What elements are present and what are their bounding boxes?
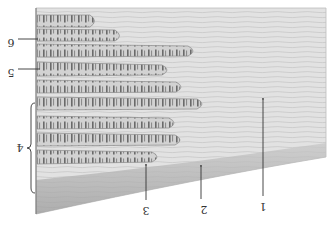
label-5: 5 [8, 66, 15, 79]
muscle-fiber [37, 150, 157, 164]
muscle-fiber [37, 80, 181, 93]
label-2: 2 [201, 203, 208, 216]
muscle-tendon-illustration: 1 2 3 4 5 6 [0, 0, 336, 226]
muscle-fiber [37, 97, 202, 110]
label-4: 4 [17, 141, 24, 154]
label-3: 3 [143, 204, 150, 217]
brace-4 [27, 103, 35, 193]
muscle-fiber [37, 116, 174, 129]
muscle-fiber [37, 44, 193, 57]
muscle-fiber [37, 29, 120, 41]
muscle-fiber [37, 15, 95, 27]
muscle-fiber [37, 133, 180, 146]
label-1: 1 [260, 200, 267, 213]
label-6: 6 [8, 36, 15, 49]
